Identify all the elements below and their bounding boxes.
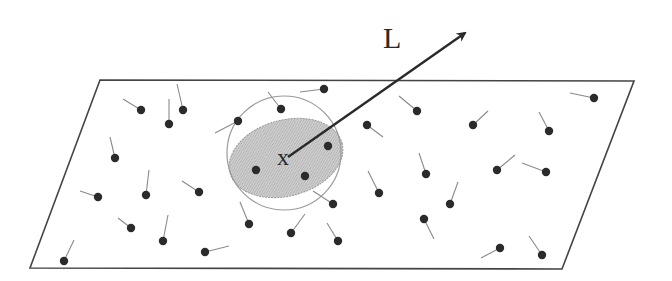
dipole-dot: [142, 191, 150, 199]
dipole-dot: [375, 189, 383, 197]
dipole-dot: [301, 172, 309, 180]
dipole-dot: [545, 127, 553, 135]
local-neighborhood-diagram: L x: [0, 0, 672, 281]
dipole-dot: [195, 188, 203, 196]
dipole-dot: [334, 237, 342, 245]
dipole-dot: [446, 200, 454, 208]
dipole-dot: [127, 224, 135, 232]
diagram-canvas: L x: [0, 0, 672, 281]
dipole-dot: [469, 121, 477, 129]
dipole-dot: [277, 105, 285, 113]
dipole-dot: [165, 120, 173, 128]
dipole-dot: [420, 215, 428, 223]
dipole-dot: [234, 117, 242, 125]
dipole-dot: [201, 248, 209, 256]
dipole-dot: [159, 237, 167, 245]
dipole-dot: [413, 107, 421, 115]
dipole-dot: [542, 168, 550, 176]
dipole-dot: [137, 106, 145, 114]
dipole-dot: [324, 142, 332, 150]
dipole-dot: [493, 166, 501, 174]
vector-L-arrow: [288, 33, 465, 157]
point-label-x: x: [277, 144, 289, 170]
dipole-dot: [329, 200, 337, 208]
dipole-dot: [538, 251, 546, 259]
dipole-dot: [245, 220, 253, 228]
dipole-dot: [320, 85, 328, 93]
dipole-dot: [363, 121, 371, 129]
dipole-dot: [590, 94, 598, 102]
dipole-dot: [287, 229, 295, 237]
dipole-dot: [111, 154, 119, 162]
dipole-dot: [60, 257, 68, 265]
dipole-dot: [252, 166, 260, 174]
dipole-dot: [496, 244, 504, 252]
dipole-dot: [94, 193, 102, 201]
dipole-dot: [179, 106, 187, 114]
vector-label-L: L: [383, 21, 401, 54]
dipole-dot: [422, 170, 430, 178]
